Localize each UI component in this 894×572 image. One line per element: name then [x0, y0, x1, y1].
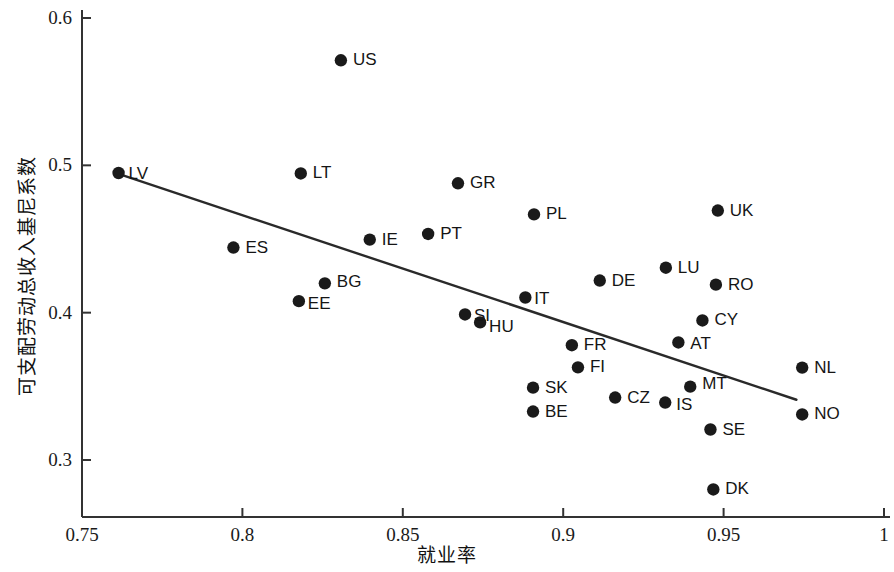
data-point-label: NO: [814, 404, 840, 424]
data-point-label: AT: [690, 334, 710, 354]
data-point-marker: [707, 483, 719, 495]
data-point-label: CY: [714, 310, 738, 330]
data-point-marker: [528, 208, 540, 220]
data-point-label: DK: [725, 479, 749, 499]
data-point-label: SE: [722, 420, 745, 440]
data-point-label: CZ: [627, 388, 650, 408]
data-point-label: SK: [545, 378, 568, 398]
data-point-label: PL: [546, 204, 567, 224]
data-point-marker: [712, 204, 724, 216]
y-axis-title: 可支配劳动总收入基尼系数: [12, 106, 39, 446]
data-point-label: HU: [489, 317, 514, 337]
data-point-marker: [112, 167, 124, 179]
data-point-label: DE: [612, 271, 636, 291]
data-point-label: ES: [245, 238, 268, 258]
data-point-label: IS: [676, 395, 692, 415]
data-point-marker: [796, 361, 808, 373]
data-point-label: FR: [584, 335, 607, 355]
data-point-marker: [527, 381, 539, 393]
data-point-marker: [527, 405, 539, 417]
data-point-marker: [519, 291, 531, 303]
y-tick-label: 0.3: [20, 449, 72, 471]
data-point-marker: [566, 339, 578, 351]
data-point-label: BG: [337, 272, 362, 292]
data-point-label: BE: [545, 402, 568, 422]
data-point-label: FI: [590, 357, 605, 377]
scatter-plot-figure: 0.750.80.850.90.9510.30.40.50.6 LVUSLTGR…: [0, 0, 894, 572]
data-point-marker: [319, 277, 331, 289]
data-point-label: GR: [470, 173, 496, 193]
trend-line: [119, 174, 797, 400]
plot-canvas: [0, 0, 894, 572]
data-point-marker: [335, 54, 347, 66]
data-point-label: US: [353, 50, 377, 70]
data-point-marker: [684, 380, 696, 392]
data-point-label: NL: [814, 358, 836, 378]
data-point-label: UK: [730, 201, 754, 221]
data-point-label: PT: [440, 224, 462, 244]
data-points: [112, 54, 808, 496]
data-point-marker: [227, 241, 239, 253]
data-point-label: MT: [702, 374, 727, 394]
data-point-marker: [572, 361, 584, 373]
data-point-label: LV: [129, 164, 149, 184]
data-point-marker: [293, 295, 305, 307]
data-point-marker: [422, 228, 434, 240]
data-point-label: IE: [382, 230, 398, 250]
data-point-marker: [609, 391, 621, 403]
data-point-marker: [796, 408, 808, 420]
data-point-marker: [696, 314, 708, 326]
data-point-label: LU: [678, 258, 700, 278]
data-point-label: LT: [313, 163, 332, 183]
data-point-marker: [459, 308, 471, 320]
data-point-label: IT: [534, 289, 549, 309]
x-axis-title: 就业率: [0, 540, 894, 567]
data-point-label: EE: [308, 294, 331, 314]
data-point-marker: [704, 423, 716, 435]
axes: [82, 10, 890, 517]
data-point-marker: [364, 233, 376, 245]
data-point-label: SI: [474, 306, 490, 326]
data-point-marker: [660, 262, 672, 274]
data-point-label: RO: [728, 275, 754, 295]
data-point-marker: [710, 278, 722, 290]
data-point-marker: [594, 274, 606, 286]
data-point-marker: [672, 336, 684, 348]
y-tick-label: 0.6: [20, 7, 72, 29]
data-point-marker: [295, 167, 307, 179]
data-point-marker: [452, 177, 464, 189]
data-point-marker: [659, 396, 671, 408]
